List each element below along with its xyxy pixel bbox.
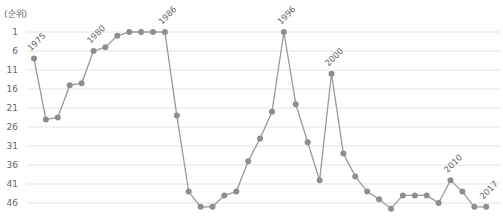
data-point [293, 101, 299, 107]
data-point [245, 158, 251, 164]
y-axis-ticks: 161116212631364146 [7, 27, 19, 208]
y-tick-label: 26 [7, 122, 19, 132]
data-point [79, 80, 85, 86]
y-tick-label: 46 [7, 198, 19, 208]
data-point [388, 206, 394, 212]
data-point [281, 29, 287, 35]
point-labels: 1975198019861996200020102017 [25, 4, 500, 201]
data-point [67, 82, 73, 88]
year-label: 1980 [85, 23, 107, 45]
data-point [400, 192, 406, 198]
data-point [448, 177, 454, 183]
data-point [43, 116, 49, 122]
data-point [376, 196, 382, 202]
data-point [91, 48, 97, 54]
data-point [114, 33, 120, 39]
y-tick-label: 6 [12, 46, 18, 56]
data-point [352, 173, 358, 179]
data-point [162, 29, 168, 35]
y-axis-label: (순위) [4, 9, 27, 19]
data-point [459, 189, 465, 195]
year-label: 2000 [323, 46, 345, 68]
data-point [221, 192, 227, 198]
data-point [329, 71, 335, 77]
data-point [424, 192, 430, 198]
data-point [138, 29, 144, 35]
data-point [55, 115, 61, 121]
data-point [257, 135, 263, 141]
data-point [233, 189, 239, 195]
data-point [483, 204, 489, 210]
data-point [198, 204, 204, 210]
y-tick-label: 11 [7, 65, 18, 75]
data-point [31, 56, 37, 62]
y-tick-label: 31 [7, 141, 18, 151]
year-label: 2017 [478, 179, 500, 201]
data-point [210, 204, 216, 210]
data-point [305, 139, 311, 145]
data-point [269, 109, 275, 115]
data-point [174, 113, 180, 119]
data-point [436, 200, 442, 206]
data-point [186, 189, 192, 195]
data-point [471, 204, 477, 210]
data-point [102, 44, 108, 50]
data-point [340, 151, 346, 157]
rank-line [34, 32, 486, 209]
data-point [412, 192, 418, 198]
y-tick-label: 41 [7, 179, 18, 189]
chart-canvas: (순위) 161116212631364146 1975198019861996… [0, 0, 503, 222]
data-point [150, 29, 156, 35]
data-point [126, 29, 132, 35]
rank-line-chart: (순위) 161116212631364146 1975198019861996… [0, 0, 503, 222]
y-tick-label: 16 [7, 84, 19, 94]
year-label: 2010 [442, 152, 464, 174]
y-tick-label: 1 [12, 27, 18, 37]
year-label: 1986 [156, 4, 178, 26]
y-tick-label: 21 [7, 103, 18, 113]
year-label: 1975 [25, 31, 47, 53]
y-tick-label: 36 [7, 160, 19, 170]
gridlines [27, 32, 500, 203]
data-point [317, 177, 323, 183]
data-point [364, 189, 370, 195]
year-label: 1996 [275, 4, 297, 26]
